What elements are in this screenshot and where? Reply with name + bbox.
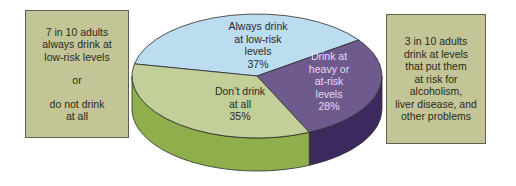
slice-label-heavy-at-risk: at-risk (315, 75, 344, 87)
slice-label-always-low-risk: Always drink (229, 20, 289, 32)
slice-label-heavy-at-risk: 28% (318, 100, 339, 112)
slice-label-dont-drink: Don’t drink (215, 85, 266, 97)
slice-label-heavy-at-risk: Drink at (311, 50, 347, 62)
pie-chart: Always drinkat low-risklevels37%Drink at… (0, 0, 516, 186)
slice-label-heavy-at-risk: heavy or (309, 63, 350, 75)
slice-label-dont-drink: 35% (229, 110, 250, 122)
slice-label-always-low-risk: 37% (247, 58, 268, 70)
slice-label-always-low-risk: levels (245, 45, 272, 57)
slice-label-dont-drink: at all (229, 98, 251, 110)
slice-label-always-low-risk: at low-risk (234, 33, 282, 45)
slice-label-heavy-at-risk: levels (316, 88, 343, 100)
